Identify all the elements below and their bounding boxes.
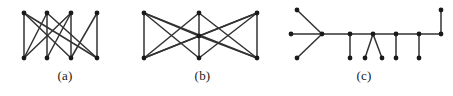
graph-vertex <box>197 34 202 39</box>
caption-a: (a) <box>0 68 130 84</box>
graph-vertex <box>142 56 147 61</box>
graph-vertex <box>320 32 325 37</box>
graph-vertex <box>417 32 422 37</box>
graph-vertex <box>22 11 27 16</box>
graph-vertex <box>295 8 300 13</box>
graph-edge <box>47 13 97 58</box>
graph-vertex <box>348 32 353 37</box>
graph-vertex <box>95 11 100 16</box>
graph-vertex <box>295 56 300 61</box>
graph-vertex <box>363 56 368 61</box>
graph-vertex <box>394 32 399 37</box>
graph-vertex <box>439 32 444 37</box>
graph-vertex <box>289 32 294 37</box>
graph-vertex <box>417 56 422 61</box>
graph-c <box>275 0 453 72</box>
graph-vertex <box>69 11 74 16</box>
graph-vertex <box>255 11 260 16</box>
graph-vertex <box>371 32 376 37</box>
graph-vertex <box>142 11 147 16</box>
graph-vertex <box>22 56 27 61</box>
subfigure-b: (b) <box>130 0 275 96</box>
subfigure-a: (a) <box>0 0 130 96</box>
figure-panel: (a) (b) (c) <box>0 0 453 96</box>
caption-b: (b) <box>130 68 275 84</box>
caption-c: (c) <box>275 68 453 84</box>
graph-vertex <box>348 56 353 61</box>
graph-vertex <box>380 56 385 61</box>
graph-edge <box>71 13 97 58</box>
graph-edge <box>365 34 373 58</box>
graph-vertex <box>439 8 444 13</box>
graph-vertex <box>255 56 260 61</box>
graph-edge <box>297 10 322 34</box>
graph-vertex <box>45 56 50 61</box>
subfigure-c: (c) <box>275 0 453 96</box>
graph-a <box>0 0 130 72</box>
graph-vertex <box>197 11 202 16</box>
graph-b <box>130 0 275 72</box>
graph-edge <box>47 13 71 58</box>
graph-vertex <box>394 56 399 61</box>
graph-edge <box>297 34 322 58</box>
graph-vertex <box>45 11 50 16</box>
graph-vertex <box>95 56 100 61</box>
graph-vertex <box>69 56 74 61</box>
graph-edge <box>373 34 382 58</box>
graph-vertex <box>197 56 202 61</box>
